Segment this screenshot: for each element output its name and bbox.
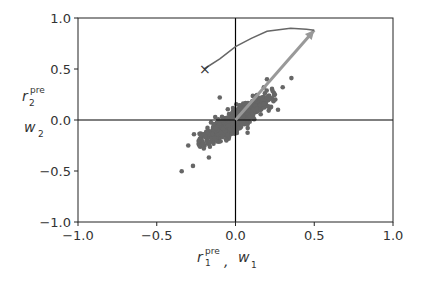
scatter-point [207,155,212,160]
scatter-point [208,145,213,150]
x-tick-label: −1.0 [62,228,94,243]
scatter-point [201,142,206,147]
scatter-point [280,85,285,90]
plot-area: × [78,18,393,222]
scatter-point [211,122,216,127]
y-label-sup: pre [30,85,45,95]
scatter-point [234,102,239,107]
scatter-point [289,76,294,81]
scatter-point [261,102,266,107]
scatter-chart: × −1.0−0.50.00.51.0 −1.0−0.50.00.51.0 r … [0,0,429,287]
scatter-point [238,106,243,111]
scatter-point [266,108,271,113]
scatter-point [196,139,201,144]
trajectory-start-marker: × [199,61,211,77]
scatter-point [210,132,215,137]
y-label-w-sub: 2 [38,129,44,139]
x-label-sup: pre [205,246,220,256]
scatter-point [245,126,250,131]
x-label-r: r [197,249,204,265]
scatter-point [186,143,191,148]
y-tick-label: 0.5 [50,62,71,77]
scatter-point [231,106,236,111]
x-axis-label: r pre 1 , w 1 [197,246,257,270]
scatter-point [218,139,223,144]
scatter-point [202,146,207,151]
scatter-point [263,91,268,96]
x-tick-label: 0.5 [304,228,325,243]
y-label-r: r [22,88,29,104]
scatter-point [192,132,197,137]
scatter-point [191,164,196,169]
scatter-point [255,107,260,112]
scatter-point [241,101,246,106]
y-tick-label: 1.0 [50,11,71,26]
x-tick-label: 1.0 [383,228,404,243]
x-tick-label: 0.0 [225,228,246,243]
scatter-point [229,114,234,119]
x-label-w: w [238,249,250,265]
scatter-point [276,108,281,113]
y-tick-label: −1.0 [39,215,71,230]
scatter-point [224,137,229,142]
scatter-point [214,126,219,131]
x-axis-ticks: −1.0−0.50.00.51.0 [62,222,403,243]
scatter-point [217,95,222,100]
scatter-point [203,135,208,140]
y-label-sub: 2 [29,98,35,108]
scatter-point [231,121,236,126]
scatter-point [207,141,212,146]
scatter-point [226,123,231,128]
y-label-w: w [24,119,36,135]
scatter-point [226,107,231,112]
eigenvector-arrow [236,30,315,120]
x-label-sep: , [224,253,228,269]
scatter-point [245,131,250,136]
scatter-point [179,169,184,174]
y-tick-label: 0.0 [50,113,71,128]
scatter-point [221,126,226,131]
y-axis-ticks: −1.0−0.50.00.51.0 [39,11,78,230]
scatter-point [273,92,278,97]
scatter-point [237,126,242,131]
y-axis-label: r pre 2 w 2 [22,85,45,139]
scatter-point [246,108,251,113]
y-tick-label: −0.5 [39,164,71,179]
scatter-point [267,97,272,102]
x-tick-label: −0.5 [141,228,173,243]
scatter-point [260,97,265,102]
x-label-sub: 1 [205,258,211,268]
x-label-w-sub: 1 [251,260,257,270]
